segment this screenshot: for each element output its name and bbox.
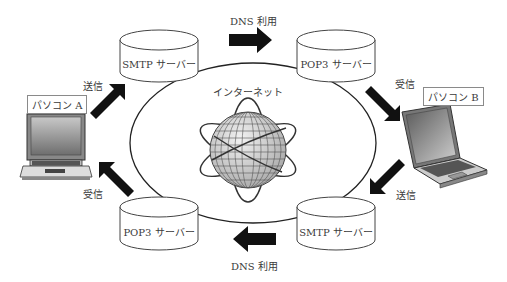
dns-label-bottom: DNS 利用 [231,258,278,273]
arrow-receive-pc-b-icon [365,86,400,121]
laptop-a-icon [20,114,92,180]
receive-label-pc-b: 受信 [395,76,415,91]
diagram-canvas [0,0,507,282]
globe-icon [194,98,302,202]
dns-label-top: DNS 利用 [230,13,277,28]
server-label-smtp-bottom-right: SMTP サーバー [296,224,376,239]
receive-label-pc-a: 受信 [83,186,103,201]
server-label-smtp-top-left: SMTP サーバー [119,56,199,71]
arrow-left-dns-bottom-icon [233,226,276,252]
arrow-right-dns-top-icon [229,27,272,53]
internet-label: インターネット [213,84,283,99]
server-label-pop3-top-right: POP3 サーバー [296,56,376,71]
send-label-pc-b: 送信 [396,187,416,202]
pc-b-label: パソコン B [423,87,484,106]
server-label-pop3-bottom-left: POP3 サーバー [119,224,199,239]
send-label-pc-a: 送信 [83,78,103,93]
arrow-receive-pc-a-icon [99,162,134,197]
laptop-b-icon [402,104,487,188]
pc-a-label: パソコン A [27,95,87,114]
